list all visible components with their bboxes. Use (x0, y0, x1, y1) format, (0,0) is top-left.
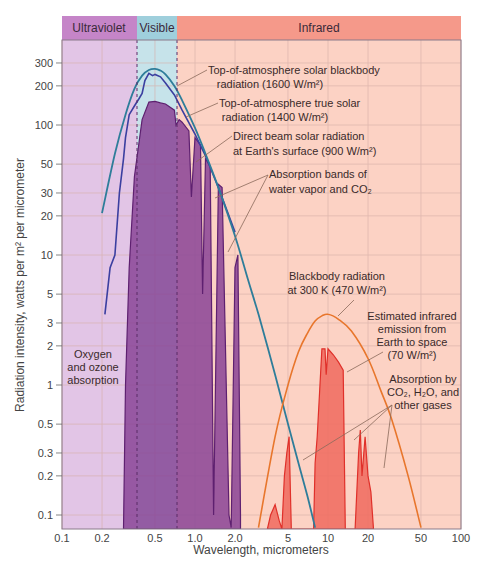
band-ultraviolet-label: Ultraviolet (72, 21, 126, 35)
y-tick-label: 100 (35, 119, 53, 131)
y-tick-label: 2 (47, 340, 53, 352)
annotation-earth-ir-line1: Estimated infrared (367, 310, 456, 322)
y-tick-label: 5 (47, 288, 53, 300)
annotation-earth-ir-line4: (70 W/m²) (388, 349, 437, 361)
annotation-gases-line3: other gases (394, 399, 452, 411)
y-axis-label: Radiation intensity, watts per m² per mi… (13, 158, 27, 412)
annotation-ozone-line2: and ozone (67, 361, 118, 373)
y-axis-ticks: 3002001005030201053210.50.30.20.1 (35, 57, 62, 521)
y-tick-label: 3 (47, 317, 53, 329)
x-tick-label: 100 (452, 532, 470, 544)
spectrum-chart: Ultraviolet Visible Infrared 30020010050… (0, 0, 486, 580)
band-infrared-label: Infrared (298, 21, 339, 35)
annotation-blackbody-line1: Top-of-atmosphere solar blackbody (208, 64, 380, 76)
annotation-earth-ir-line2: emission from (378, 323, 446, 335)
y-tick-label: 10 (41, 249, 53, 261)
y-tick-label: 0.1 (38, 509, 53, 521)
annotation-direct-beam-line2: at Earth's surface (900 W/m²) (233, 145, 376, 157)
annotation-blackbody-line2: radiation (1600 W/m²) (217, 78, 323, 90)
y-tick-label: 30 (41, 187, 53, 199)
x-tick-label: 0.2 (94, 532, 109, 544)
y-tick-label: 0.5 (38, 418, 53, 430)
y-tick-label: 0.3 (38, 447, 53, 459)
y-tick-label: 50 (41, 158, 53, 170)
x-tick-label: 0.5 (147, 532, 162, 544)
y-tick-label: 0.2 (38, 470, 53, 482)
band-header: Ultraviolet Visible Infrared (62, 16, 461, 40)
annotation-direct-beam-line1: Direct beam solar radiation (233, 130, 364, 142)
annotation-gases-line2: CO₂, H₂O, and (387, 386, 459, 398)
annotation-ozone-line1: Oxygen (74, 348, 112, 360)
y-tick-label: 200 (35, 80, 53, 92)
annotation-ozone-line3: absorption (67, 374, 118, 386)
annotation-true-solar-line2: radiation (1400 W/m²) (222, 111, 328, 123)
y-tick-label: 1 (47, 379, 53, 391)
annotation-absorption-bands-line1: Absorption bands of (269, 168, 368, 180)
x-tick-label: 50 (415, 532, 427, 544)
x-tick-label: 20 (362, 532, 374, 544)
annotation-gases-line1: Absorption by (389, 373, 457, 385)
annotation-300k-line1: Blackbody radiation (289, 270, 385, 282)
y-tick-label: 20 (41, 210, 53, 222)
annotation-earth-ir-line3: Earth to space (377, 336, 448, 348)
y-tick-label: 300 (35, 57, 53, 69)
x-tick-label: 0.1 (54, 532, 69, 544)
annotation-absorption-bands-line2: water vapor and CO₂ (268, 183, 372, 195)
annotation-300k-line2: at 300 K (470 W/m²) (287, 284, 386, 296)
x-axis-label: Wavelength, micrometers (193, 543, 329, 557)
annotation-true-solar-line1: Top-of-atmosphere true solar (219, 97, 361, 109)
band-visible-label: Visible (139, 21, 174, 35)
